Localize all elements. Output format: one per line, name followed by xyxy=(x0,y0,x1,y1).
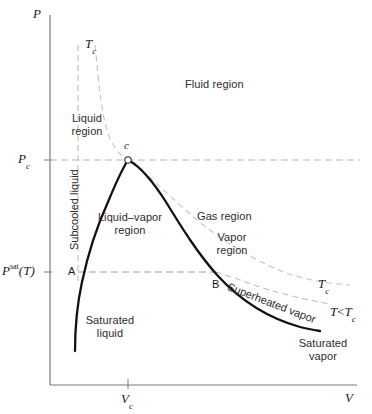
isotherm-label-tc-right: Tc xyxy=(318,276,329,294)
isotherm-label-tc-upper: Tc xyxy=(85,36,96,54)
region-label-saturated-vapor-line2: vapor xyxy=(292,350,354,363)
vc-main: V xyxy=(121,391,129,406)
tc-right-sub: c xyxy=(325,286,329,296)
region-label-subcooled-liquid: Subcooled liquid xyxy=(68,169,80,250)
y-tick-label-saturation-pressure: Psat(T) xyxy=(2,263,35,279)
sub-tc-main2: T xyxy=(345,304,352,319)
y-axis-label: P xyxy=(33,6,41,22)
region-label-vapor: Vapor region xyxy=(209,231,255,256)
sub-tc-sub: c xyxy=(352,314,356,324)
tc-upper-sub: c xyxy=(92,46,96,56)
region-label-liquid-vapor-line1: Liquid–vapor xyxy=(92,211,168,224)
point-label-critical: c xyxy=(124,139,129,151)
point-label-a: A xyxy=(68,265,75,277)
point-label-b: B xyxy=(212,278,219,290)
y-tick-label-critical-pressure: Pc xyxy=(18,151,30,169)
region-label-liquid-vapor-line2: region xyxy=(92,224,168,237)
isotherm-label-subcritical: T<Tc xyxy=(330,304,356,322)
region-label-saturated-liquid-line1: Saturated xyxy=(80,314,140,327)
region-label-saturated-vapor: Saturated vapor xyxy=(292,337,354,362)
region-label-gas: Gas region xyxy=(197,210,252,223)
region-label-liquid-vapor: Liquid–vapor region xyxy=(92,211,168,236)
vc-sub: c xyxy=(129,401,133,411)
x-axis-label: V xyxy=(345,390,353,406)
pc-sub: c xyxy=(26,161,30,171)
region-label-vapor-line2: region xyxy=(209,244,255,257)
pc-main: P xyxy=(18,151,26,166)
sub-tc-rel: < xyxy=(337,304,344,319)
critical-point-marker xyxy=(125,157,131,163)
region-label-saturated-vapor-line1: Saturated xyxy=(292,337,354,350)
x-tick-label-critical-volume: Vc xyxy=(121,391,133,409)
region-label-fluid: Fluid region xyxy=(185,78,244,91)
region-label-liquid: Liquid region xyxy=(63,112,111,137)
psat-sup: sat xyxy=(10,262,19,271)
region-label-liquid-line2: region xyxy=(63,125,111,138)
region-label-vapor-line1: Vapor xyxy=(209,231,255,244)
region-label-liquid-line1: Liquid xyxy=(63,112,111,125)
psat-main: P xyxy=(2,263,10,278)
pv-phase-diagram-figure: P V Pc Psat(T) Vc Fluid region Liquid re… xyxy=(0,0,372,414)
region-label-saturated-liquid: Saturated liquid xyxy=(80,314,140,339)
region-label-saturated-liquid-line2: liquid xyxy=(80,327,140,340)
psat-paren: (T) xyxy=(19,263,35,278)
